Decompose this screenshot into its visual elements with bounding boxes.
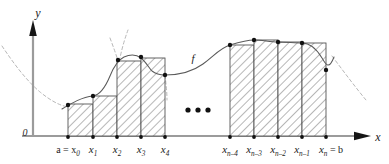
y-axis-arrowhead bbox=[29, 20, 37, 36]
curve-node-xn bbox=[324, 68, 328, 72]
curve-node-x0 bbox=[66, 103, 70, 107]
axis-dot-xn3 bbox=[252, 135, 256, 139]
right-rectangle-group bbox=[230, 40, 326, 136]
axis-dot-xn2 bbox=[276, 135, 280, 139]
riemann-sum-figure: y x 0 f a = x0 x1 x2 x3 x4 xn–4 xn–3 xn–… bbox=[0, 0, 389, 164]
axis-dot-x0 bbox=[66, 135, 70, 139]
dashed-curve-right bbox=[332, 56, 366, 100]
x-axis-label: x bbox=[374, 130, 381, 144]
tick-label-x4: x4 bbox=[160, 143, 170, 158]
bar-x1-x2 bbox=[93, 96, 117, 136]
ellipsis-group bbox=[185, 107, 210, 112]
tick-label-xn-suffix: = b bbox=[327, 144, 343, 155]
bar-x3-x4 bbox=[141, 58, 165, 136]
axis-dot-x1 bbox=[91, 135, 95, 139]
dashed-curve-mid-left bbox=[110, 38, 118, 61]
x-axis-arrowhead bbox=[354, 132, 371, 140]
tick-label-xn4-sub: n–4 bbox=[227, 150, 238, 158]
tick-label-x2-sub: 2 bbox=[118, 150, 122, 158]
figure-canvas: y x 0 f a = x0 x1 x2 x3 x4 xn–4 xn–3 xn–… bbox=[0, 0, 389, 164]
tick-label-xn1-sub: n–1 bbox=[299, 150, 310, 158]
axis-dot-xn1 bbox=[300, 135, 304, 139]
curve-node-x4 bbox=[163, 73, 167, 77]
curve-node-x1 bbox=[91, 94, 95, 98]
tick-label-x1: x1 bbox=[88, 143, 97, 158]
tick-label-x1-sub: 1 bbox=[94, 150, 98, 158]
axis-dot-x2 bbox=[115, 135, 119, 139]
bar-x0-x1 bbox=[68, 104, 93, 136]
tick-label-x0: a = x0 bbox=[56, 144, 80, 158]
y-axis bbox=[29, 20, 37, 136]
tick-label-x0-sub: 0 bbox=[76, 150, 80, 158]
tick-label-xn2: xn–2 bbox=[269, 143, 286, 158]
tick-labels-right: xn–4 xn–3 xn–2 xn–1 xn = b bbox=[221, 143, 343, 158]
curve-node-xn1 bbox=[300, 41, 304, 45]
tick-label-xn3: xn–3 bbox=[245, 143, 262, 158]
curve-node-xn3 bbox=[252, 38, 256, 42]
tick-label-xn4: xn–4 bbox=[221, 143, 238, 158]
tick-label-x2: x2 bbox=[112, 143, 122, 158]
curve-node-x3 bbox=[139, 55, 143, 59]
ellipsis-dot-3 bbox=[205, 107, 210, 112]
tick-labels-left: a = x0 x1 x2 x3 x4 bbox=[56, 143, 169, 158]
dashed-curve-left bbox=[2, 46, 68, 107]
tick-label-xn: xn = b bbox=[318, 143, 343, 158]
bar-xn4-xn3 bbox=[230, 45, 254, 136]
axis-dot-xn bbox=[324, 135, 328, 139]
ellipsis-dot-1 bbox=[185, 107, 190, 112]
axis-dot-xn4 bbox=[228, 135, 232, 139]
curve-node-xn4 bbox=[228, 43, 232, 47]
axis-dot-x3 bbox=[139, 135, 143, 139]
tick-label-x4-sub: 4 bbox=[166, 150, 170, 158]
tick-label-xn1: xn–1 bbox=[293, 143, 310, 158]
bar-xn2-xn1 bbox=[278, 42, 302, 136]
dashed-curve-mid-left-2 bbox=[120, 30, 128, 58]
curve-node-x2 bbox=[116, 58, 120, 62]
tick-label-x3: x3 bbox=[136, 143, 146, 158]
bar-xn1-xn bbox=[302, 43, 326, 136]
origin-label: 0 bbox=[23, 127, 28, 138]
axis-dot-x4 bbox=[163, 135, 167, 139]
bar-x2-x3 bbox=[117, 61, 141, 136]
tick-label-x3-sub: 3 bbox=[141, 150, 146, 158]
function-label: f bbox=[191, 52, 196, 64]
y-axis-label: y bbox=[34, 6, 41, 20]
curve-segment-middle bbox=[165, 45, 230, 75]
bar-xn3-xn2 bbox=[254, 40, 278, 136]
ellipsis-dot-2 bbox=[195, 107, 200, 112]
curve-node-xn2 bbox=[276, 40, 280, 44]
tick-label-xn3-sub: n–3 bbox=[251, 150, 262, 158]
tick-label-xn2-sub: n–2 bbox=[275, 150, 286, 158]
tick-label-x0-prefix: a = x bbox=[56, 144, 76, 155]
